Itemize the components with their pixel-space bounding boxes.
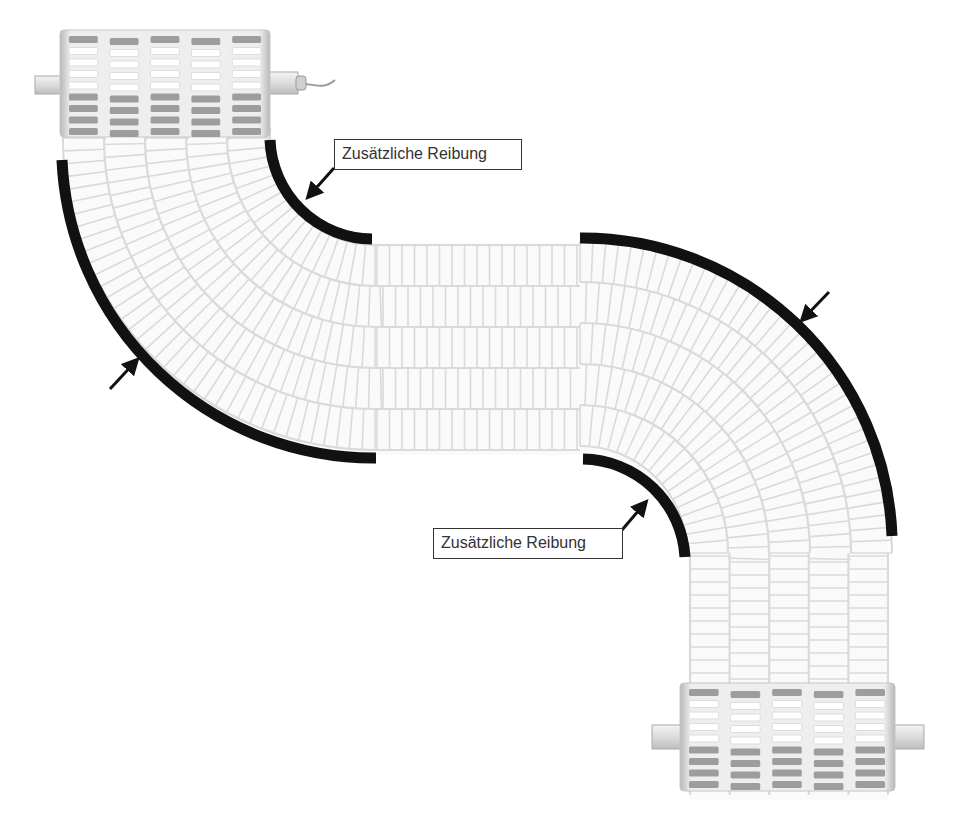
roller-connector — [296, 76, 306, 90]
arrow-bottom-label — [622, 503, 645, 530]
arrow-top-label — [309, 168, 334, 196]
annotation-label-bottom-text: Zusätzliche Reibung — [441, 534, 586, 551]
arrow-left-outer — [110, 361, 136, 389]
roller-cable-icon — [306, 80, 335, 86]
roller-shaft-left — [652, 725, 682, 749]
roller-shaft-left — [35, 76, 63, 94]
annotation-label-bottom: Zusätzliche Reibung — [433, 528, 623, 559]
roller-shaft-right — [268, 72, 298, 94]
annotation-label-top-text: Zusätzliche Reibung — [342, 145, 487, 162]
conveyor-diagram — [0, 0, 968, 832]
annotation-label-top: Zusätzliche Reibung — [334, 139, 522, 170]
arrow-right-outer — [803, 292, 829, 319]
roller-shaft-right — [894, 725, 924, 749]
drive-roller-top — [35, 30, 335, 137]
drive-roller-bottom — [652, 683, 924, 791]
